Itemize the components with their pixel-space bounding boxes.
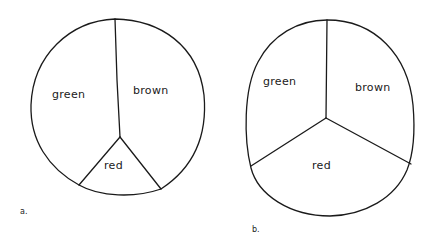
pie-b-divider-right: [326, 118, 411, 164]
pie-b: [246, 20, 414, 216]
pie-a-divider-top: [115, 19, 120, 137]
pie-a-divider-right: [120, 137, 161, 189]
pie-a-label-red: red: [104, 159, 123, 172]
pie-b-outline: [246, 20, 414, 216]
pie-b-label-brown: brown: [355, 81, 390, 94]
pie-a-label-green: green: [52, 88, 85, 101]
pie-b-divider-top: [326, 20, 327, 118]
pie-b-label-red: red: [312, 159, 331, 172]
pie-a-label-brown: brown: [133, 84, 168, 97]
pie-b-caption: b.: [252, 225, 260, 234]
pie-a-caption: a.: [20, 207, 27, 216]
pie-b-label-green: green: [263, 75, 296, 88]
pie-sketches: [0, 0, 440, 244]
